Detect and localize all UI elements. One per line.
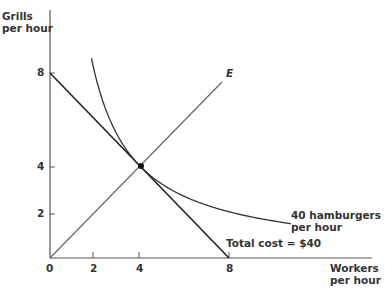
isoquant-label: 40 hamburgersper hour: [291, 209, 381, 233]
y-axis-label: Grillsper hour: [2, 10, 53, 34]
tangency-point: [138, 163, 144, 169]
x-tick-8: 8: [226, 262, 233, 274]
plot-area: [0, 0, 385, 292]
x-tick-4: 4: [136, 262, 143, 274]
chart: Grillsper hour Workersper hour 40 hambur…: [0, 0, 385, 292]
y-tick-4: 4: [37, 160, 44, 172]
expansion-path-label: E: [226, 67, 233, 79]
y-tick-8: 8: [37, 66, 44, 78]
x-tick-0: 0: [46, 262, 53, 274]
x-axis-label: Workersper hour: [330, 262, 381, 286]
x-tick-2: 2: [90, 262, 97, 274]
isocost-label: Total cost = $40: [226, 237, 321, 249]
expansion-path-line: [50, 82, 222, 258]
isoquant-curve: [91, 58, 290, 223]
y-tick-2: 2: [37, 207, 44, 219]
